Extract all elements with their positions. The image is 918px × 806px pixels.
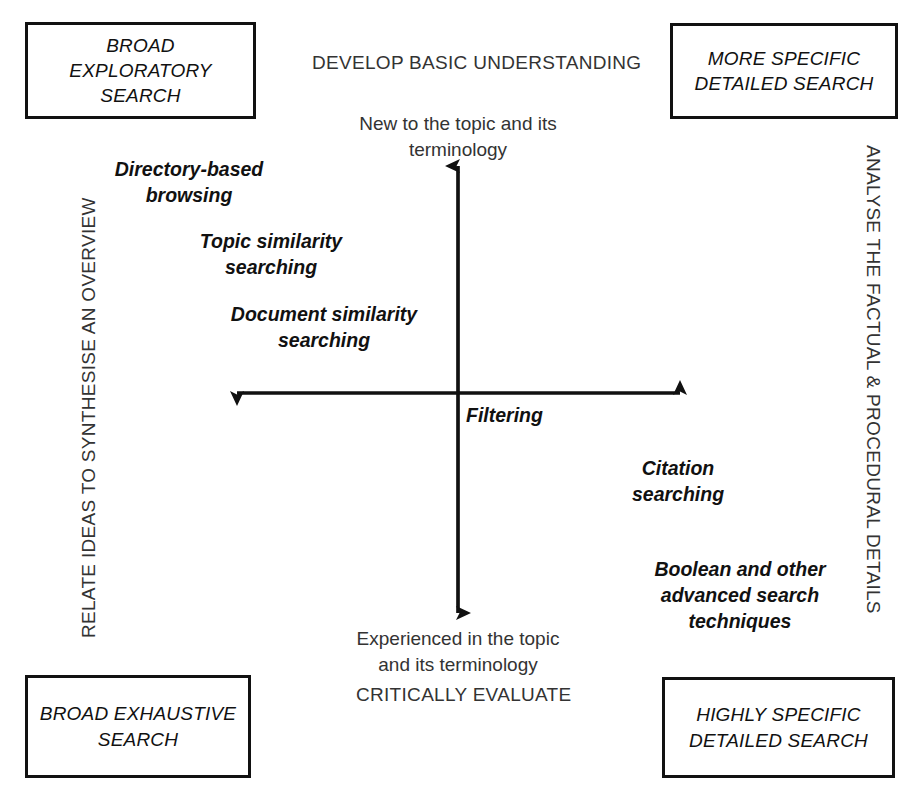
right-axis-caption: ANALYSE THE FACTUAL & PROCEDURAL DETAILS [862, 145, 884, 614]
corner-box-label: BROAD EXPLORATORY SEARCH [69, 33, 211, 108]
strategy-label-directory-based-browsing: Directory-based browsing [96, 156, 282, 208]
corner-box-highly-specific-detailed-search: HIGHLY SPECIFIC DETAILED SEARCH [662, 677, 895, 778]
top-axis-headline: DEVELOP BASIC UNDERSTANDING [312, 52, 641, 74]
corner-box-more-specific-detailed-search: MORE SPECIFIC DETAILED SEARCH [670, 23, 898, 119]
corner-box-label: MORE SPECIFIC DETAILED SEARCH [695, 46, 874, 96]
strategy-label-boolean-advanced-search: Boolean and other advanced search techni… [634, 556, 846, 634]
diagram-canvas: BROAD EXPLORATORY SEARCH MORE SPECIFIC D… [0, 0, 918, 806]
corner-box-label: HIGHLY SPECIFIC DETAILED SEARCH [689, 702, 868, 752]
corner-box-broad-exhaustive-search: BROAD EXHAUSTIVE SEARCH [25, 675, 251, 778]
bottom-axis-pole-label: Experienced in the topic and its termino… [328, 626, 588, 678]
strategy-label-citation-searching: Citation searching [608, 455, 748, 507]
strategy-label-document-similarity-searching: Document similarity searching [222, 301, 426, 353]
bottom-axis-headline: CRITICALLY EVALUATE [356, 684, 571, 706]
strategy-label-filtering: Filtering [466, 402, 596, 428]
strategy-label-topic-similarity-searching: Topic similarity searching [178, 228, 364, 280]
left-axis-caption: RELATE IDEAS TO SYNTHESISE AN OVERVIEW [78, 197, 100, 638]
top-axis-pole-label: New to the topic and its terminology [328, 111, 588, 163]
corner-box-broad-exploratory-search: BROAD EXPLORATORY SEARCH [25, 22, 256, 119]
corner-box-label: BROAD EXHAUSTIVE SEARCH [40, 701, 236, 751]
